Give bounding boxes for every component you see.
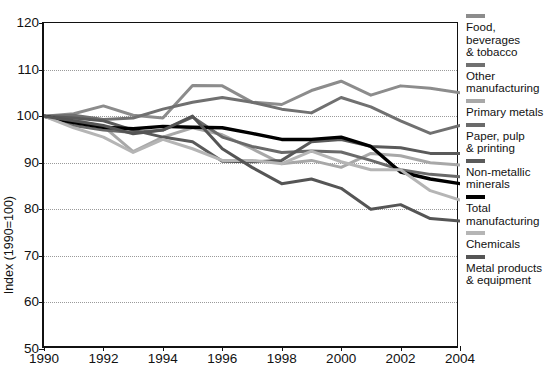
series-lines	[44, 23, 460, 349]
x-axis-tick-mark	[282, 346, 283, 351]
legend-item-label: Other manufacturing	[466, 70, 552, 95]
x-axis-tick-mark	[44, 346, 45, 351]
y-axis-tick-label: 80	[24, 203, 39, 217]
legend-swatch-icon	[466, 255, 485, 259]
legend-item[interactable]: Total manufacturing	[466, 195, 552, 227]
x-axis-tick-mark	[163, 346, 164, 351]
y-axis-tick-label: 100	[16, 109, 39, 123]
legend-item-label: Chemicals	[466, 238, 552, 251]
legend-item[interactable]: Food, beverages & tobacco	[466, 14, 552, 59]
x-axis-tick-label: 1998	[267, 352, 297, 366]
x-axis-tick-label: 2000	[326, 352, 356, 366]
legend-item[interactable]: Paper, pulp & printing	[466, 123, 552, 155]
legend-swatch-icon	[466, 99, 485, 103]
legend-swatch-icon	[466, 63, 485, 67]
x-axis-tick-mark	[460, 346, 461, 351]
y-axis-tick-mark	[39, 70, 44, 71]
legend-item-label: Metal products & equipment	[466, 262, 552, 287]
chart-legend: Food, beverages & tobaccoOther manufactu…	[466, 14, 552, 291]
x-axis-tick-label: 1992	[88, 352, 118, 366]
legend-item-label: Total manufacturing	[466, 202, 552, 227]
y-axis-label: Index (1990=100)	[2, 196, 16, 294]
legend-swatch-icon	[466, 231, 485, 235]
x-axis-tick-mark	[103, 346, 104, 351]
legend-item[interactable]: Other manufacturing	[466, 63, 552, 95]
legend-item[interactable]: Metal products & equipment	[466, 255, 552, 287]
y-axis-tick-label: 70	[24, 249, 39, 263]
chart-page: Index (1990=100) 50607080901001101201990…	[0, 0, 552, 370]
y-axis-tick-label: 90	[24, 156, 39, 170]
legend-swatch-icon	[466, 195, 485, 199]
plot-area: 5060708090100110120199019921994199619982…	[42, 22, 458, 348]
x-axis-tick-label: 1994	[148, 352, 178, 366]
legend-swatch-icon	[466, 123, 485, 127]
x-axis-tick-label: 2004	[445, 352, 475, 366]
legend-item[interactable]: Chemicals	[466, 231, 552, 251]
legend-item-label: Food, beverages & tobacco	[466, 21, 552, 59]
legend-swatch-icon	[466, 14, 485, 18]
legend-item-label: Paper, pulp & printing	[466, 130, 552, 155]
legend-item-label: Non-metallic minerals	[466, 166, 552, 191]
y-axis-tick-mark	[39, 256, 44, 257]
series-line	[44, 81, 460, 118]
legend-item[interactable]: Primary metals	[466, 99, 552, 119]
x-axis-tick-label: 2002	[386, 352, 416, 366]
legend-item-label: Primary metals	[466, 106, 552, 119]
y-axis-tick-label: 120	[16, 16, 39, 30]
x-axis-tick-mark	[401, 346, 402, 351]
y-axis-tick-label: 110	[17, 63, 39, 77]
x-axis-tick-mark	[222, 346, 223, 351]
x-axis-tick-label: 1990	[29, 352, 59, 366]
y-axis-tick-mark	[39, 163, 44, 164]
y-axis-tick-mark	[39, 302, 44, 303]
y-axis-tick-mark	[39, 23, 44, 24]
x-axis-tick-mark	[341, 346, 342, 351]
legend-item[interactable]: Non-metallic minerals	[466, 159, 552, 191]
y-axis-tick-label: 60	[24, 296, 39, 310]
y-axis-tick-mark	[39, 209, 44, 210]
y-axis-tick-mark	[39, 116, 44, 117]
legend-swatch-icon	[466, 159, 485, 163]
x-axis-tick-label: 1996	[207, 352, 237, 366]
